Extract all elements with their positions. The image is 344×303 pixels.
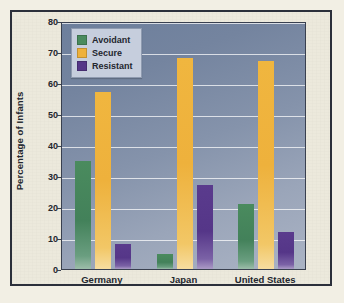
bar-germany-secure	[95, 92, 111, 269]
x-tick-label-germany: Germany	[61, 274, 143, 285]
legend-swatch-resistant	[77, 61, 87, 71]
y-tick-label-0: 0	[34, 266, 58, 275]
legend-item-avoidant[interactable]: Avoidant	[77, 34, 133, 46]
y-tick-label-40: 40	[34, 142, 58, 151]
x-tick-label-japan: Japan	[143, 274, 225, 285]
y-tick-label-60: 60	[34, 80, 58, 89]
legend-label-secure: Secure	[92, 48, 122, 58]
bar-japan-secure	[177, 58, 193, 269]
bar-united-states-secure	[258, 61, 274, 269]
plot-area: Avoidant Secure Resistant	[61, 22, 306, 270]
y-axis-title: Percentage of Infants	[13, 36, 27, 246]
x-tick-label-united-states: United States	[224, 274, 306, 285]
legend-item-secure[interactable]: Secure	[77, 47, 133, 59]
bar-united-states-resistant	[278, 232, 294, 269]
legend-label-resistant: Resistant	[92, 61, 133, 71]
legend-swatch-avoidant	[77, 35, 87, 45]
y-tick-label-50: 50	[34, 111, 58, 120]
y-tick-label-80: 80	[34, 18, 58, 27]
legend-swatch-secure	[77, 48, 87, 58]
y-tick-mark-0	[57, 270, 61, 271]
bar-germany-avoidant	[75, 161, 91, 270]
chart-figure: Percentage of Infants 80706050403020100 …	[0, 0, 344, 303]
y-tick-label-70: 70	[34, 49, 58, 58]
gridline-80	[62, 23, 305, 24]
y-tick-label-10: 10	[34, 235, 58, 244]
legend-label-avoidant: Avoidant	[92, 35, 130, 45]
bar-united-states-avoidant	[238, 204, 254, 269]
bar-japan-avoidant	[157, 254, 173, 270]
y-tick-label-30: 30	[34, 173, 58, 182]
legend: Avoidant Secure Resistant	[71, 28, 142, 78]
bar-germany-resistant	[115, 244, 131, 269]
y-tick-label-20: 20	[34, 204, 58, 213]
legend-item-resistant[interactable]: Resistant	[77, 60, 133, 72]
bar-japan-resistant	[197, 185, 213, 269]
